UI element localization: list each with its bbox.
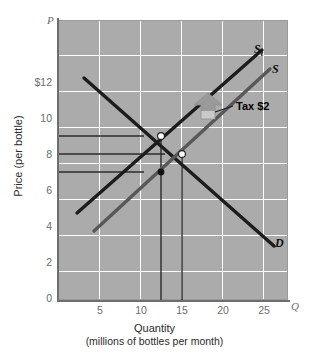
gridline-vertical: [263, 20, 264, 300]
x-tick-label: 20: [208, 304, 238, 316]
curve-label-supply: S: [272, 62, 279, 77]
y-axis-title: Price (per bottle): [12, 96, 24, 216]
plot-area: [58, 20, 288, 300]
gridline-horizontal: [58, 91, 288, 92]
x-axis-title-sub: (millions of bottles per month): [0, 335, 309, 348]
x-axis-title: Quantity (millions of bottles per month): [0, 322, 309, 348]
y-axis-symbol: P: [47, 14, 54, 26]
gridline-vertical: [140, 20, 141, 300]
gridline-vertical: [181, 20, 182, 300]
y-tick-label: 0: [18, 292, 52, 304]
tax-annotation-label: Tax $2: [236, 100, 269, 112]
curve-label-supply-tax: St: [254, 42, 263, 58]
x-axis-symbol: Q: [291, 300, 299, 312]
y-axis-line: [57, 18, 59, 302]
curve-label-demand: D: [275, 236, 284, 251]
x-axis-line: [57, 300, 290, 302]
y-tick-label: 2: [18, 256, 52, 268]
gridline-vertical: [99, 20, 100, 300]
supply-demand-tax-chart: St S D Tax $2 $12 10 8 6 4 2 0 5 10 15 2…: [0, 0, 309, 359]
y-tick-label: $12: [18, 76, 52, 88]
gridline-horizontal: [58, 127, 288, 128]
gridline-horizontal: [58, 199, 288, 200]
gridline-horizontal: [58, 163, 288, 164]
y-tick-label: 4: [18, 220, 52, 232]
x-tick-label: 15: [167, 304, 197, 316]
x-axis-title-main: Quantity: [0, 322, 309, 335]
gridline-horizontal: [58, 271, 288, 272]
gridline-horizontal: [58, 235, 288, 236]
x-tick-label: 5: [85, 304, 115, 316]
gridline-vertical: [222, 20, 223, 300]
x-tick-label: 10: [126, 304, 156, 316]
x-tick-label: 25: [249, 304, 279, 316]
